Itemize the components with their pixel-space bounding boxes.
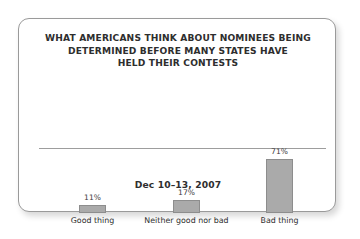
bar-group-bad-thing: 71% Bad thing	[266, 84, 293, 213]
bar-value-label: 71%	[271, 147, 288, 156]
bar-rect	[173, 200, 200, 213]
bar-category-label: Neither good nor bad	[144, 216, 228, 226]
bar-category-label: Good thing	[71, 216, 115, 226]
bar-value-label: 11%	[84, 193, 101, 202]
bar-category-label: Bad thing	[260, 216, 298, 226]
chart-footnote: Dec 10–13, 2007	[19, 179, 337, 190]
bar-rect	[79, 205, 106, 213]
bar-group-neither-good-nor-bad: 17% Neither good nor bad	[173, 84, 200, 213]
chart-card: WHAT AMERICANS THINK ABOUT NOMINEES BEIN…	[18, 18, 336, 212]
bar-group-good-thing: 11% Good thing	[79, 84, 106, 213]
